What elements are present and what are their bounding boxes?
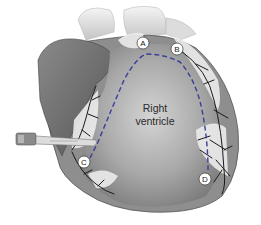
marker-d: D	[199, 173, 211, 185]
label-right: Right	[143, 102, 168, 114]
heart-diagram: Right ventricle A B C D	[0, 0, 261, 225]
svg-text:A: A	[140, 39, 146, 48]
marker-c: C	[78, 156, 90, 168]
svg-text:B: B	[174, 45, 179, 54]
marker-a: A	[137, 37, 149, 49]
marker-b: B	[171, 43, 183, 55]
label-ventricle: ventricle	[135, 115, 174, 127]
svg-text:C: C	[81, 158, 87, 167]
svg-text:D: D	[202, 175, 208, 184]
